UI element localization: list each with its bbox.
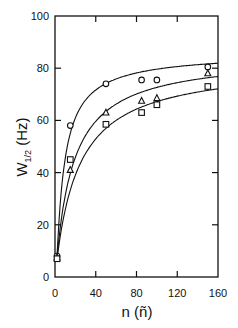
square-marker [67,157,73,163]
square-marker [154,102,160,108]
square-marker [139,110,145,116]
x-axis-label: n (ñ) [122,303,153,320]
x-tick-label: 120 [168,287,186,299]
square-marker [54,256,60,262]
y-axis-label: W1/2 (Hz) [13,117,33,176]
circle-marker [103,81,109,87]
triangle-marker [154,95,160,101]
fit-curve-circle [57,63,218,256]
square-marker [103,122,109,128]
circle-marker [139,77,145,83]
y-tick-label: 20 [37,219,49,231]
fit-curve-square [57,89,218,259]
y-tick-label: 60 [37,114,49,126]
y-tick-label: 100 [31,10,49,22]
y-tick-label: 0 [43,271,49,283]
x-tick-label: 40 [90,287,102,299]
y-tick-label: 80 [37,62,49,74]
y-tick-label: 40 [37,167,49,179]
fit-curve-triangle [57,77,218,258]
square-marker [205,84,211,90]
triangle-marker [139,97,145,103]
triangle-marker [205,70,211,76]
chart: 04080120160020406080100 n (ñ) W1/2 (Hz) [0,0,238,328]
x-tick-label: 160 [209,287,227,299]
x-tick-label: 80 [130,287,142,299]
circle-marker [67,123,73,129]
circle-marker [154,77,160,83]
x-tick-label: 0 [52,287,58,299]
fit-curves [57,63,218,259]
